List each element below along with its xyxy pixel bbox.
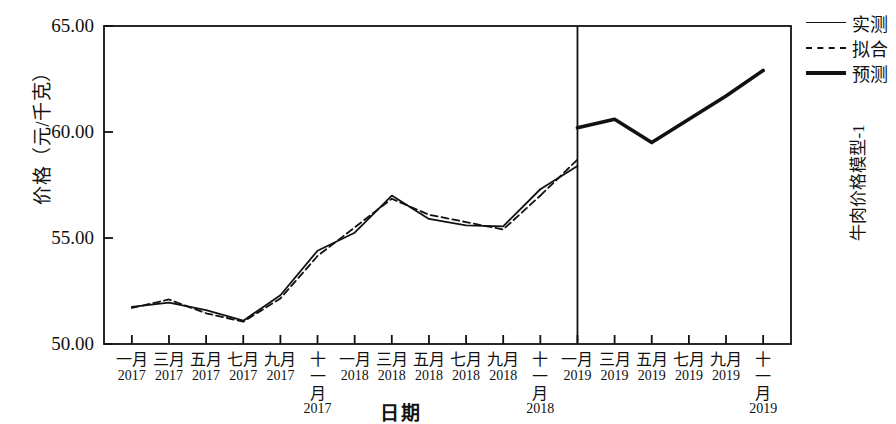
x-tick-year: 2018 — [483, 369, 523, 384]
y-axis-tick-label: 65.00 — [18, 16, 94, 35]
x-tick-year: 2019 — [632, 369, 672, 384]
x-tick-month: 十一月 — [303, 352, 333, 402]
series-line-3 — [540, 160, 577, 196]
x-tick-month: 九月 — [260, 352, 300, 369]
x-tick-year: 2017 — [223, 369, 263, 384]
y-axis-tick-label: 60.00 — [18, 122, 94, 141]
x-tick-year: 2018 — [525, 402, 555, 417]
chart-right-title: 牛肉价格模型-1 — [844, 83, 869, 283]
x-axis-tick-label: 三月2018 — [372, 352, 412, 383]
x-axis-tick-label: 九月2018 — [483, 352, 523, 383]
series-line-0 — [132, 189, 540, 320]
x-tick-year: 2017 — [186, 369, 226, 384]
x-tick-year: 2019 — [706, 369, 746, 384]
x-axis-tick-label: 三月2019 — [595, 352, 635, 383]
x-tick-month: 十一月 — [525, 352, 555, 402]
legend-key-solid-thin-icon — [806, 16, 846, 30]
x-tick-month: 五月 — [186, 352, 226, 369]
x-tick-year: 2019 — [748, 402, 778, 417]
x-tick-month: 三月 — [595, 352, 635, 369]
x-tick-month: 九月 — [706, 352, 746, 369]
plot-frame — [104, 26, 791, 344]
legend-item-observed: 实测 — [806, 10, 896, 35]
x-tick-month: 九月 — [483, 352, 523, 369]
legend-item-fitted: 拟合 — [806, 35, 896, 60]
x-tick-year: 2019 — [595, 369, 635, 384]
x-axis-tick-label: 七月2019 — [669, 352, 709, 383]
x-tick-year: 2019 — [669, 369, 709, 384]
x-axis-tick-label: 三月2017 — [149, 352, 189, 383]
series-line-4 — [577, 71, 763, 143]
x-axis-tick-label: 一月2019 — [557, 352, 597, 383]
x-tick-month: 五月 — [632, 352, 672, 369]
y-axis-tick-label: 50.00 — [18, 334, 94, 353]
x-tick-month: 五月 — [409, 352, 449, 369]
x-tick-month: 三月 — [372, 352, 412, 369]
x-axis-tick-label: 一月2017 — [112, 352, 152, 383]
legend-item-forecast: 预测 — [806, 60, 896, 85]
x-tick-year: 2019 — [557, 369, 597, 384]
x-tick-year: 2018 — [335, 369, 375, 384]
x-tick-year: 2017 — [260, 369, 300, 384]
x-tick-year: 2017 — [112, 369, 152, 384]
x-tick-year: 2018 — [409, 369, 449, 384]
x-axis-tick-label: 五月2018 — [409, 352, 449, 383]
x-axis-tick-label: 九月2017 — [260, 352, 300, 383]
x-tick-month: 一月 — [557, 352, 597, 369]
x-tick-month: 七月 — [669, 352, 709, 369]
x-axis-tick-label: 十一月2017 — [303, 352, 333, 417]
x-tick-month: 三月 — [149, 352, 189, 369]
x-tick-month: 十一月 — [748, 352, 778, 402]
y-axis-tick-label: 55.00 — [18, 228, 94, 247]
x-axis-tick-label: 七月2018 — [446, 352, 486, 383]
x-tick-month: 七月 — [446, 352, 486, 369]
legend-label-observed: 实测 — [852, 10, 888, 36]
x-tick-year: 2018 — [446, 369, 486, 384]
chart-figure: 价格（元/千克） 日期 牛肉价格模型-1 65.0060.0055.0050.0… — [0, 0, 896, 424]
x-tick-month: 七月 — [223, 352, 263, 369]
x-axis-tick-label: 九月2019 — [706, 352, 746, 383]
x-axis-tick-label: 五月2017 — [186, 352, 226, 383]
x-axis-tick-label: 一月2018 — [335, 352, 375, 383]
x-tick-year: 2017 — [149, 369, 189, 384]
x-axis-tick-label: 十一月2018 — [525, 352, 555, 417]
legend-label-forecast: 预测 — [852, 60, 888, 86]
x-tick-year: 2017 — [303, 402, 333, 417]
x-axis-title: 日期 — [380, 398, 422, 424]
legend-label-fitted: 拟合 — [852, 35, 888, 61]
x-tick-year: 2018 — [372, 369, 412, 384]
x-axis-tick-label: 七月2017 — [223, 352, 263, 383]
x-axis-tick-label: 十一月2019 — [748, 352, 778, 417]
legend-key-solid-thick-icon — [806, 66, 846, 80]
x-tick-month: 一月 — [112, 352, 152, 369]
chart-legend: 实测 拟合 预测 — [806, 10, 896, 85]
x-axis-tick-label: 五月2019 — [632, 352, 672, 383]
legend-key-dashed-icon — [806, 41, 846, 55]
series-line-1 — [132, 196, 540, 322]
x-tick-month: 一月 — [335, 352, 375, 369]
